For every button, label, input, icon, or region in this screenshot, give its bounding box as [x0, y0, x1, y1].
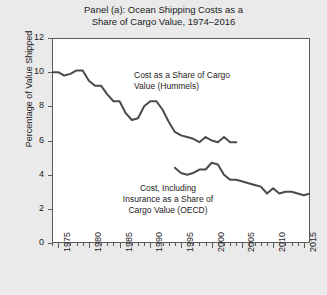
x-tick-mark-major — [181, 243, 182, 248]
x-tick-mark-major — [58, 243, 59, 248]
x-tick-mark-major — [304, 243, 305, 248]
x-tick-mark-minor — [70, 243, 71, 246]
x-tick-mark-minor — [206, 243, 207, 246]
chart-figure: Panel (a): Ocean Shipping Costs as a Sha… — [0, 0, 327, 295]
x-tick-mark-minor — [267, 243, 268, 246]
x-tick-label: 1990 — [154, 232, 164, 252]
x-tick-mark-minor — [83, 243, 84, 246]
x-tick-mark-minor — [279, 243, 280, 246]
x-tick-mark-minor — [64, 243, 65, 246]
y-tick-label: 2 — [18, 203, 44, 213]
x-tick-mark-minor — [175, 243, 176, 246]
x-tick-mark-minor — [107, 243, 108, 246]
x-tick-mark-minor — [224, 243, 225, 246]
x-tick-mark-minor — [218, 243, 219, 246]
x-tick-label: 1980 — [93, 232, 103, 252]
y-tick-mark — [48, 141, 52, 142]
x-tick-mark-minor — [298, 243, 299, 246]
x-tick-mark-minor — [113, 243, 114, 246]
x-tick-mark-minor — [138, 243, 139, 246]
x-tick-mark-minor — [163, 243, 164, 246]
y-tick-label: 10 — [18, 66, 44, 76]
x-tick-mark-minor — [156, 243, 157, 246]
x-tick-label: 2005 — [246, 232, 256, 252]
y-axis-label: Percentage of Value Shipped — [24, 4, 34, 174]
x-tick-label: 1975 — [62, 232, 72, 252]
x-tick-mark-major — [242, 243, 243, 248]
y-tick-mark — [48, 106, 52, 107]
x-tick-mark-minor — [199, 243, 200, 246]
x-tick-mark-minor — [249, 243, 250, 246]
x-tick-mark-major — [273, 243, 274, 248]
x-tick-mark-minor — [230, 243, 231, 246]
y-tick-mark — [48, 209, 52, 210]
y-tick-label: 8 — [18, 100, 44, 110]
x-tick-mark-minor — [255, 243, 256, 246]
chart-title: Panel (a): Ocean Shipping Costs as a Sha… — [0, 4, 327, 28]
y-tick-label: 0 — [18, 237, 44, 247]
x-tick-label: 1985 — [124, 232, 134, 252]
x-tick-mark-minor — [101, 243, 102, 246]
x-tick-mark-minor — [132, 243, 133, 246]
x-tick-mark-minor — [236, 243, 237, 246]
y-tick-mark — [48, 72, 52, 73]
series-annotation-oecd: Cost, Including Insurance as a Share of … — [108, 183, 228, 216]
x-tick-mark-minor — [77, 243, 78, 246]
x-tick-label: 2015 — [308, 232, 318, 252]
series-annotation-hummels: Cost as a Share of Cargo Value (Hummels) — [134, 70, 230, 92]
x-tick-mark-minor — [95, 243, 96, 246]
x-tick-mark-major — [89, 243, 90, 248]
x-tick-mark-minor — [285, 243, 286, 246]
x-tick-mark-major — [212, 243, 213, 248]
y-tick-mark — [48, 38, 52, 39]
x-tick-mark-minor — [310, 243, 311, 246]
x-tick-mark-minor — [144, 243, 145, 246]
x-tick-mark-minor — [187, 243, 188, 246]
x-tick-label: 2000 — [216, 232, 226, 252]
x-tick-mark-minor — [169, 243, 170, 246]
y-tick-label: 12 — [18, 32, 44, 42]
x-tick-mark-minor — [52, 243, 53, 246]
x-tick-mark-minor — [193, 243, 194, 246]
y-tick-mark — [48, 175, 52, 176]
x-tick-mark-major — [120, 243, 121, 248]
x-tick-label: 2010 — [277, 232, 287, 252]
x-tick-mark-minor — [261, 243, 262, 246]
y-tick-label: 6 — [18, 135, 44, 145]
x-tick-mark-major — [150, 243, 151, 248]
x-tick-mark-minor — [126, 243, 127, 246]
y-tick-label: 4 — [18, 169, 44, 179]
x-tick-label: 1995 — [185, 232, 195, 252]
x-tick-mark-minor — [292, 243, 293, 246]
